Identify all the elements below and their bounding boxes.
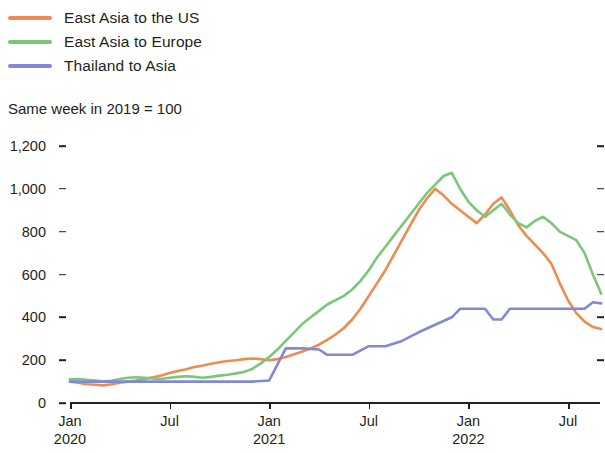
x-axis-label-month: Jul [360, 413, 379, 429]
plot-area: 02004006008001,0001,200 [0, 130, 605, 415]
x-axis-tick [170, 402, 172, 409]
chart-page: East Asia to the US East Asia to Europe … [0, 0, 605, 453]
legend-label-east-asia-us: East Asia to the US [64, 9, 199, 27]
legend-label-thailand-asia: Thailand to Asia [64, 57, 176, 75]
x-axis-label-month: Jan [457, 413, 480, 429]
x-axis-tick [369, 402, 371, 409]
x-axis-label-year: 2021 [253, 430, 285, 448]
x-axis-tick [269, 402, 271, 409]
x-axis-label: Jan2022 [452, 412, 484, 448]
x-axis-label-month: Jul [160, 413, 179, 429]
x-axis-label: Jul [160, 412, 179, 430]
series-line [70, 302, 601, 381]
x-axis [0, 402, 605, 404]
x-axis-label-year: 2020 [54, 430, 86, 448]
x-axis-label-month: Jan [58, 413, 81, 429]
x-axis-label: Jul [559, 412, 578, 430]
chart-lines [0, 130, 605, 415]
x-axis-label: Jan2020 [54, 412, 86, 448]
legend-swatch-thailand-asia [8, 64, 52, 68]
legend-label-east-asia-europe: East Asia to Europe [64, 33, 202, 51]
legend-item-east-asia-europe: East Asia to Europe [8, 30, 202, 54]
legend-item-east-asia-us: East Asia to the US [8, 6, 202, 30]
x-axis-label-year: 2022 [452, 430, 484, 448]
series-line [70, 173, 601, 381]
x-axis-label-month: Jul [559, 413, 578, 429]
x-axis-line [70, 402, 600, 404]
legend-item-thailand-asia: Thailand to Asia [8, 54, 202, 78]
chart-legend: East Asia to the US East Asia to Europe … [8, 6, 202, 78]
x-axis-tick [70, 402, 72, 409]
legend-swatch-east-asia-us [8, 16, 52, 20]
x-axis-label: Jul [360, 412, 379, 430]
x-axis-label-month: Jan [257, 413, 280, 429]
x-axis-labels: Jan2020JulJan2021JulJan2022Jul [0, 410, 605, 453]
x-axis-tick [468, 402, 470, 409]
chart-subtitle: Same week in 2019 = 100 [8, 100, 182, 117]
x-axis-label: Jan2021 [253, 412, 285, 448]
legend-swatch-east-asia-europe [8, 40, 52, 44]
x-axis-tick [568, 402, 570, 409]
